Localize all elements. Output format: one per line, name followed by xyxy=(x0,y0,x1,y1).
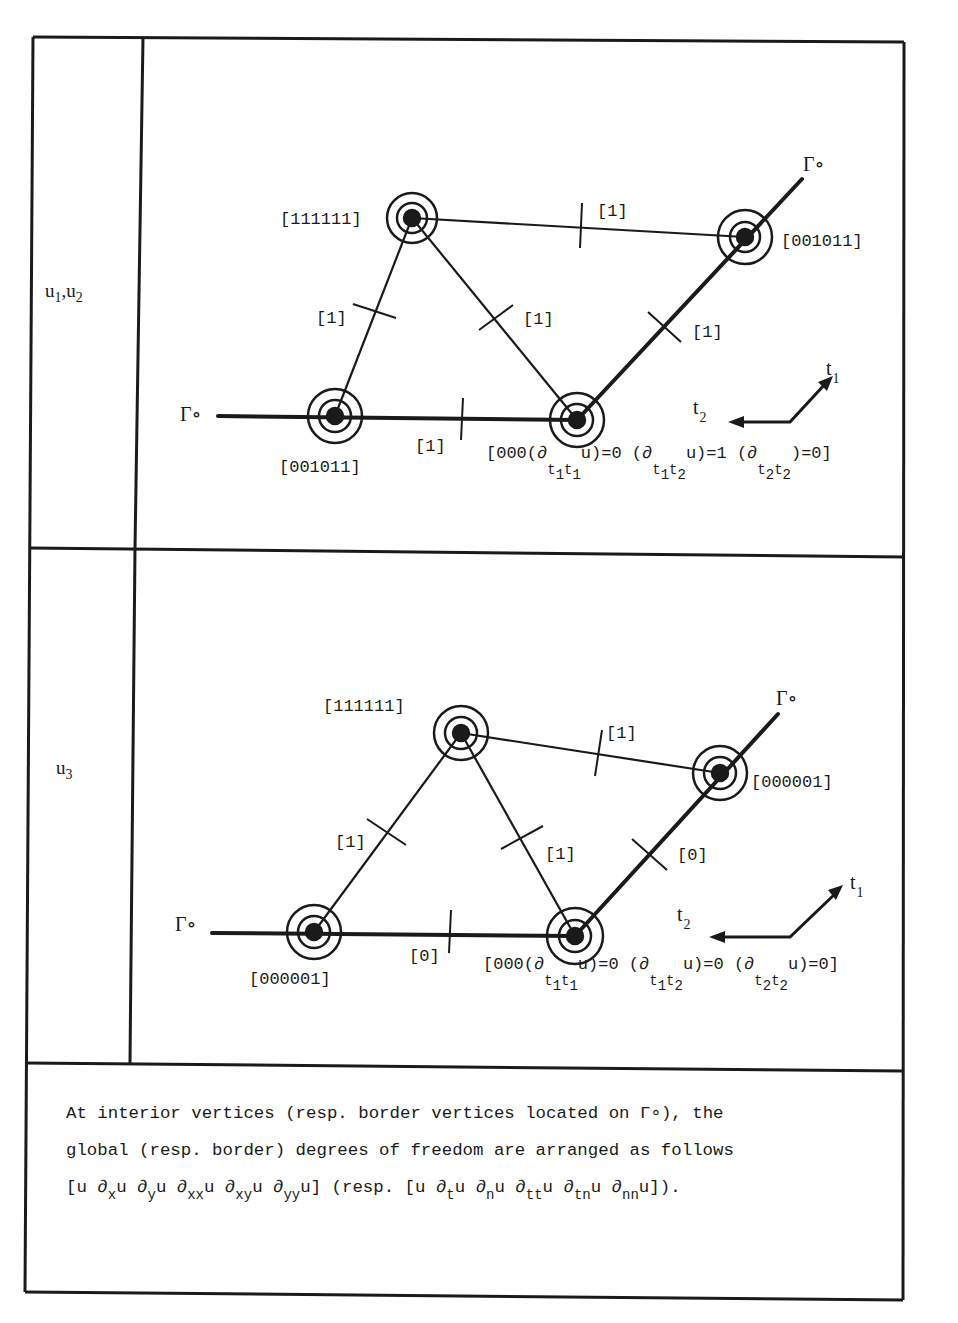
edge-top-right-label: [1] xyxy=(606,724,637,743)
edge-bottom-right-label: [1] xyxy=(692,323,723,342)
vertex-top xyxy=(434,706,488,760)
boundary-label-right: Γ∘ xyxy=(803,153,824,175)
caption-line-2: global (resp. border) degrees of freedom… xyxy=(66,1132,906,1169)
boundary-lines xyxy=(212,714,778,936)
diagram-u3: [111111] [000001] [000001] [1] [1] [1] [… xyxy=(175,687,864,994)
edge-left-bottom-label: [1] xyxy=(415,437,446,456)
edge-left-top-label: [1] xyxy=(316,309,347,328)
vertex-left-label: [000001] xyxy=(249,970,331,989)
vertex-top-label: [111111] xyxy=(280,210,362,229)
edge-ticks xyxy=(353,203,681,440)
edge-top-bottom-label: [1] xyxy=(545,845,576,864)
edge-left-bottom-label: [0] xyxy=(409,947,440,966)
axes-arrows xyxy=(709,885,843,943)
row-label-u1-u2: u1,u2 xyxy=(45,280,83,306)
caption-line-1: At interior vertices (resp. border verti… xyxy=(66,1095,906,1132)
interior-edges xyxy=(314,733,720,936)
axes-arrows xyxy=(728,376,833,428)
vertex-right xyxy=(693,746,747,800)
edge-bottom-right-label: [0] xyxy=(677,846,708,865)
boundary-label-left: Γ∘ xyxy=(180,403,201,425)
edge-top-right-label: [1] xyxy=(597,202,628,221)
figure-frame: [111111] [001011] [001011] [1] [1] [1] [… xyxy=(0,0,958,1323)
vertex-top-label: [111111] xyxy=(323,697,405,716)
vertex-bottom-label: [000(∂t1t1u)=0 (∂t1t2u)=0 (∂t2t2u)=0] xyxy=(483,955,839,994)
axis-t1-label: t1 xyxy=(850,871,864,900)
vertex-right-label: [001011] xyxy=(781,232,863,251)
edge-top-bottom-label: [1] xyxy=(523,310,554,329)
vertex-left-label: [001011] xyxy=(279,458,361,477)
axis-t2-label: t2 xyxy=(677,903,691,932)
axis-t2-label: t2 xyxy=(693,396,707,425)
row-label-u3: u3 xyxy=(56,757,73,783)
boundary-label-right: Γ∘ xyxy=(776,687,797,709)
boundary-label-left: Γ∘ xyxy=(175,913,196,935)
vertex-bottom-label: [000(∂t1t1u)=0 (∂t1t2u)=1 (∂t2t2)=0] xyxy=(486,444,832,483)
diagram-u1-u2: [111111] [001011] [001011] [1] [1] [1] [… xyxy=(180,153,863,483)
vertex-right-label: [000001] xyxy=(751,773,833,792)
caption: At interior vertices (resp. border verti… xyxy=(66,1095,906,1206)
caption-line-3: [u ∂xu ∂yu ∂xxu ∂xyu ∂yyu] (resp. [u ∂tu… xyxy=(66,1169,906,1206)
edge-ticks xyxy=(367,730,667,953)
edge-left-top-label: [1] xyxy=(335,833,366,852)
